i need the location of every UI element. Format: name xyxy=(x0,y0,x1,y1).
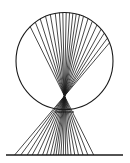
ray-line xyxy=(43,21,93,155)
rays-group xyxy=(15,13,110,155)
ray-diagram xyxy=(0,0,130,163)
ray-line xyxy=(47,19,88,155)
